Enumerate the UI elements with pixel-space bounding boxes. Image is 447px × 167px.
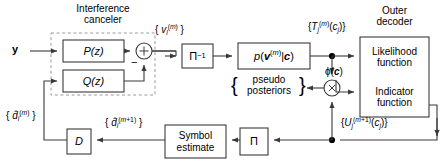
minus-sign-label: − <box>131 56 137 68</box>
p-z-block-label: P(z) <box>63 40 124 62</box>
d-hat-m-label: { d̂l(m) } <box>6 110 36 121</box>
block-diagram-canvas: Interferencecanceler Outerdecoder P(z) Q… <box>0 0 447 167</box>
pi-block-label: Π <box>240 128 268 155</box>
t-signal-label: {Tj(m)(cj)} <box>308 21 346 32</box>
symbol-estimate-block-label: Symbolestimate <box>165 125 226 158</box>
pseudo-posteriors-label: pseudoposteriors <box>238 74 300 96</box>
interference-canceler-title: Interferencecanceler <box>51 3 155 25</box>
pseudo-posteriors-left-brace: { <box>231 74 238 96</box>
d-hat-m1-label: { d̂l(m+1) } <box>105 117 142 128</box>
u-signal-label: {Uj(m+1)(cj)} <box>341 117 388 128</box>
pi-inverse-block-label: Π−1 <box>182 44 213 68</box>
q-z-block-label: Q(z) <box>63 70 124 92</box>
pseudo-posteriors-right-brace: } <box>299 74 306 96</box>
v-signal-label: { vl(m) } <box>155 24 184 35</box>
phi-signal-label: ϕ(c) <box>325 66 343 77</box>
input-y-label: y <box>12 43 18 55</box>
indicator-function-label: Indicatorfunction <box>360 80 429 114</box>
outer-decoder-title: Outerdecoder <box>360 5 429 27</box>
pvc-block-label: p(v(m)|c) <box>238 43 310 69</box>
delay-block-label: D <box>67 129 91 154</box>
likelihood-function-label: Likelihoodfunction <box>360 40 429 74</box>
